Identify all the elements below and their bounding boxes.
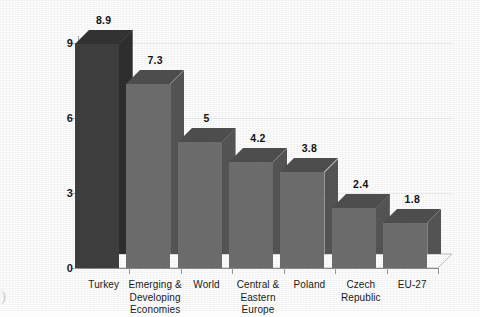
y-tick-label-9: 9 — [67, 37, 73, 49]
x-tick-5 — [387, 268, 388, 274]
y-tick-label-6: 6 — [67, 112, 73, 124]
value-label-4: 3.8 — [302, 142, 318, 154]
value-label-0: 8.9 — [96, 14, 112, 26]
bar-5 — [332, 208, 376, 268]
bar-2 — [178, 142, 222, 268]
x-tick-4 — [335, 268, 336, 274]
x-axis-label-6: EU-27 — [379, 279, 446, 292]
gridline-9 — [78, 43, 452, 44]
value-label-5: 2.4 — [353, 178, 369, 190]
x-tick-0 — [129, 268, 130, 274]
bar-front-face-6 — [383, 223, 427, 268]
x-axis — [78, 268, 438, 269]
x-tick-2 — [232, 268, 233, 274]
value-label-1: 7.3 — [147, 54, 163, 66]
bar-4 — [280, 172, 324, 268]
value-label-6: 1.8 — [405, 193, 421, 205]
x-tick-6 — [438, 268, 439, 274]
bar-front-face-4 — [280, 172, 324, 268]
bar-0 — [75, 44, 119, 268]
y-tick-label-3: 3 — [67, 187, 73, 199]
x-tick-1 — [181, 268, 182, 274]
bar-1 — [126, 84, 170, 268]
x-tick-3 — [284, 268, 285, 274]
value-label-3: 4.2 — [250, 132, 266, 144]
bar-top-face-2 — [178, 128, 236, 142]
bar-top-face-6 — [383, 209, 441, 223]
bar-front-face-3 — [229, 162, 273, 268]
bar-top-face-0 — [75, 30, 133, 44]
y-tick-label-0: 0 — [67, 262, 73, 274]
bar-top-face-1 — [126, 70, 184, 84]
bar-front-face-2 — [178, 142, 222, 268]
bar-top-face-3 — [229, 148, 287, 162]
bar-3 — [229, 162, 273, 268]
bar-front-face-1 — [126, 84, 170, 268]
value-label-2: 5 — [203, 112, 209, 124]
bar-front-face-0 — [75, 44, 119, 268]
bar-top-face-4 — [280, 158, 338, 172]
scan-artifact: ) — [1, 288, 6, 305]
bar-top-face-5 — [332, 194, 390, 208]
bar-6 — [383, 223, 427, 268]
bar-front-face-5 — [332, 208, 376, 268]
